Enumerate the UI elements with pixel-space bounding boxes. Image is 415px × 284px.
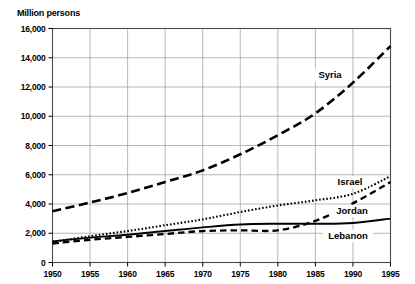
x-tick-label: 1970 [194,269,213,279]
y-tick-label: 6,000 [25,170,46,180]
population-line-chart: Million persons 02,0004,0006,0008,00010,… [0,0,415,284]
series-label-israel: Israel [338,176,363,187]
x-tick-label: 1960 [119,269,138,279]
x-tick-label: 1965 [156,269,175,279]
series-label-syria: Syria [318,69,342,80]
chart-plot-area: 02,0004,0006,0008,00010,00012,00014,0001… [0,0,415,284]
series-label-jordan: Jordan [336,205,368,216]
x-tick-label: 1985 [306,269,325,279]
x-tick-label: 1995 [381,269,400,279]
y-tick-label: 4,000 [25,199,46,209]
y-tick-label: 2,000 [25,228,46,238]
y-tick-label: 10,000 [21,111,46,121]
y-tick-label: 14,000 [21,53,46,63]
y-tick-label: 0 [41,258,46,268]
x-tick-label: 1955 [81,269,100,279]
y-tick-label: 16,000 [21,24,46,34]
x-tick-label: 1980 [269,269,288,279]
x-tick-label: 1975 [231,269,250,279]
x-tick-label: 1990 [344,269,363,279]
series-label-lebanon: Lebanon [328,230,368,241]
y-tick-label: 12,000 [21,82,46,92]
y-tick-label: 8,000 [25,141,46,151]
x-tick-label: 1950 [43,269,62,279]
